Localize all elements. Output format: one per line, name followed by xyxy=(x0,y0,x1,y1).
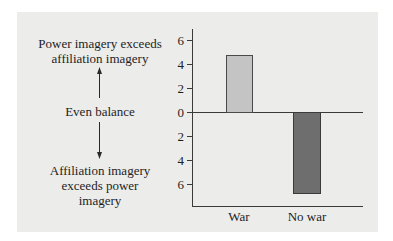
tick-label: 2 xyxy=(170,82,184,95)
annotation-top: Power imagery exceeds affiliation imager… xyxy=(30,36,170,66)
annotation-middle: Even balance xyxy=(30,104,170,119)
annotation-top-line: Power imagery exceeds xyxy=(30,36,170,51)
arrow-down-icon xyxy=(97,152,102,159)
annotation-bottom-line: Affiliation imagery xyxy=(30,163,170,178)
bar-war xyxy=(227,56,253,113)
tick-label: 4 xyxy=(170,58,184,71)
tick-label: 6 xyxy=(170,178,184,191)
tick-label: 6 xyxy=(170,34,184,47)
category-label-no-war: No war xyxy=(277,210,337,224)
tick-label: 2 xyxy=(170,130,184,143)
annotation-bottom-line: imagery xyxy=(30,193,170,208)
annotation-top-line: affiliation imagery xyxy=(30,51,170,66)
category-label-war: War xyxy=(209,210,269,224)
tick-label: 4 xyxy=(170,154,184,167)
y-ticks xyxy=(187,41,192,185)
tick-label: 0 xyxy=(170,106,184,119)
arrow-up-icon xyxy=(97,67,102,74)
annotation-bottom-line: exceeds power xyxy=(30,178,170,193)
annotation-bottom: Affiliation imagery exceeds power imager… xyxy=(30,163,170,208)
bar-no-war xyxy=(294,113,321,194)
